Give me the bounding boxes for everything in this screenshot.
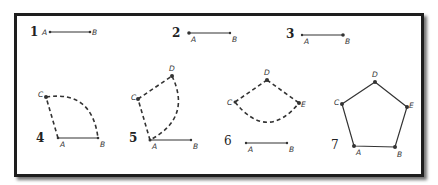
step-number: 3 xyxy=(286,27,294,41)
point-c xyxy=(136,97,140,101)
point-label-d: D xyxy=(372,70,378,79)
point-c xyxy=(44,95,48,99)
point-label-c: C xyxy=(227,98,233,107)
point-label-a: A xyxy=(355,148,361,157)
point-a xyxy=(301,34,303,36)
point-d xyxy=(373,80,377,84)
point-b xyxy=(286,142,288,144)
point-b xyxy=(97,137,100,140)
step-number: 7 xyxy=(331,138,339,152)
point-a xyxy=(57,137,60,140)
dashed-arc-ce xyxy=(235,102,299,122)
point-b xyxy=(190,139,192,141)
step-3: 3 A B xyxy=(286,27,350,46)
step-6: 6 C D E A B xyxy=(224,68,306,154)
point-b xyxy=(229,32,231,34)
step-1: 1 A B xyxy=(30,25,97,39)
point-c xyxy=(340,102,344,106)
step-number: 2 xyxy=(172,26,180,40)
step-number: 1 xyxy=(30,25,38,39)
dashed-segment-cd xyxy=(235,80,267,102)
point-label-a: A xyxy=(41,28,47,37)
point-label-a: A xyxy=(151,142,157,151)
point-label-d: D xyxy=(169,64,175,73)
step-2: 2 A B xyxy=(172,26,237,44)
dashed-segment-cd xyxy=(138,76,172,99)
dashed-segment-de xyxy=(267,80,299,103)
point-label-a: A xyxy=(190,35,196,44)
dashed-segment-ac xyxy=(46,97,58,138)
dashed-arc-da xyxy=(150,76,178,140)
point-label-b: B xyxy=(345,37,350,46)
dashed-arc-cb xyxy=(46,96,98,138)
point-b xyxy=(393,145,397,149)
point-label-c: C xyxy=(334,98,340,107)
point-a xyxy=(49,31,52,34)
point-a xyxy=(245,142,247,144)
point-b xyxy=(89,31,92,34)
step-number: 6 xyxy=(224,134,232,148)
point-label-c: C xyxy=(38,90,44,99)
point-label-b: B xyxy=(397,150,402,159)
dashed-segment-ac xyxy=(138,99,150,140)
point-label-b: B xyxy=(193,142,198,151)
step-7: 7 A B E D C xyxy=(331,70,414,159)
point-label-a: A xyxy=(303,37,309,46)
step-5: 5 C D A B xyxy=(129,64,198,151)
point-c xyxy=(234,101,237,104)
step-4: 4 C A B xyxy=(36,90,105,149)
point-d xyxy=(170,74,174,78)
point-d xyxy=(265,78,269,82)
point-label-b: B xyxy=(100,140,105,149)
pentagon xyxy=(342,82,407,147)
point-label-b: B xyxy=(289,145,294,154)
step-number: 5 xyxy=(129,131,137,145)
point-label-d: D xyxy=(264,68,270,77)
point-label-b: B xyxy=(92,28,97,37)
point-label-b: B xyxy=(232,35,237,44)
point-label-a: A xyxy=(247,145,253,154)
point-label-e: E xyxy=(409,101,414,110)
point-label-a: A xyxy=(59,140,65,149)
step-number: 4 xyxy=(36,131,44,145)
point-label-e: E xyxy=(301,100,306,109)
pentagon-construction-diagram: 1 A B 2 A B 3 A B 4 C A B 5 xyxy=(0,0,438,185)
point-label-c: C xyxy=(131,93,137,102)
